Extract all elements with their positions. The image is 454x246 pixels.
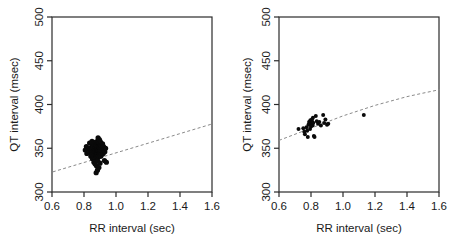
- data-point: [95, 168, 100, 173]
- y-tick-label: 450: [33, 51, 45, 70]
- data-point: [306, 135, 310, 139]
- x-tick-label: 1.2: [367, 200, 383, 212]
- data-point: [362, 113, 366, 117]
- data-point: [97, 137, 102, 142]
- data-point: [97, 161, 102, 166]
- x-tick-labels: 0.6 0.8 1.0 1.2 1.4 1.6: [44, 200, 220, 212]
- x-tick-label: 1.0: [335, 200, 351, 212]
- x-tick-label: 1.4: [172, 200, 189, 212]
- y-tick-labels: 300 350 400 450 500: [33, 7, 45, 201]
- y-tick-label: 450: [260, 51, 272, 70]
- x-tick-label: 1.4: [399, 200, 416, 212]
- x-tick-label: 1.2: [140, 200, 156, 212]
- data-point: [317, 120, 321, 124]
- data-point: [321, 113, 325, 117]
- x-axis-title: RR interval (sec): [316, 222, 402, 234]
- plot-frame: [52, 17, 212, 192]
- panel-right-plot-area: 0.6 0.8 1.0 1.2 1.4 1.6 300 350 400 450 …: [241, 7, 447, 234]
- y-tick-label: 300: [260, 182, 272, 201]
- x-tick-label: 1.6: [204, 200, 220, 212]
- y-tick-labels: 300 350 400 450 500: [260, 7, 272, 201]
- y-tick-label: 500: [260, 7, 272, 26]
- y-axis-title: QT interval (msec): [8, 57, 20, 152]
- data-point: [84, 151, 89, 156]
- x-tick-label: 0.6: [271, 200, 287, 212]
- data-point: [103, 146, 108, 151]
- x-tick-label: 1.0: [108, 200, 124, 212]
- data-point: [323, 117, 327, 121]
- x-tickmarks: [279, 192, 439, 197]
- panel-left: 0.6 0.8 1.0 1.2 1.4 1.6 300 350 400 450 …: [0, 0, 227, 246]
- data-points-right: [297, 113, 366, 139]
- y-axis-title: QT interval (msec): [241, 57, 253, 152]
- y-tickmarks: [47, 17, 52, 192]
- x-tick-labels: 0.6 0.8 1.0 1.2 1.4 1.6: [271, 200, 447, 212]
- data-point: [314, 114, 318, 118]
- data-point: [311, 121, 315, 125]
- data-points-left: [83, 135, 109, 175]
- data-point: [319, 124, 323, 128]
- data-point: [297, 127, 301, 131]
- x-tick-label: 0.8: [303, 200, 319, 212]
- x-axis-title: RR interval (sec): [89, 222, 175, 234]
- y-tick-label: 400: [33, 95, 45, 114]
- data-point: [326, 122, 330, 126]
- y-tick-label: 350: [260, 139, 272, 158]
- y-tick-label: 350: [33, 139, 45, 158]
- y-tick-label: 500: [33, 7, 45, 26]
- plot-frame: [279, 17, 439, 192]
- data-point: [104, 160, 109, 165]
- x-tick-label: 1.6: [431, 200, 447, 212]
- panel-right-canvas: 0.6 0.8 1.0 1.2 1.4 1.6 300 350 400 450 …: [227, 0, 454, 246]
- scatter-plot-figure: 0.6 0.8 1.0 1.2 1.4 1.6 300 350 400 450 …: [0, 0, 454, 246]
- y-tick-label: 400: [260, 95, 272, 114]
- y-tick-label: 300: [33, 182, 45, 201]
- data-point: [313, 135, 317, 139]
- x-tickmarks: [52, 192, 212, 197]
- panel-left-plot-area: 0.6 0.8 1.0 1.2 1.4 1.6 300 350 400 450 …: [8, 7, 220, 234]
- regression-line-left: [53, 124, 213, 172]
- x-tick-label: 0.8: [76, 200, 92, 212]
- panel-right: 0.6 0.8 1.0 1.2 1.4 1.6 300 350 400 450 …: [227, 0, 454, 246]
- x-tick-label: 0.6: [44, 200, 60, 212]
- panel-left-canvas: 0.6 0.8 1.0 1.2 1.4 1.6 300 350 400 450 …: [0, 0, 227, 246]
- y-tickmarks: [274, 17, 279, 192]
